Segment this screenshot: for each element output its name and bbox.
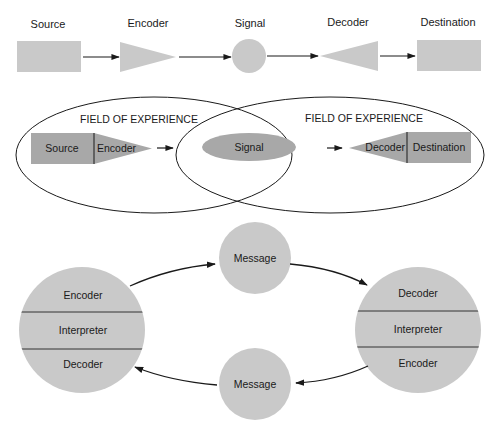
arrow-left-to-message-top (130, 264, 215, 286)
label-decoder: Decoder (327, 16, 369, 28)
linear-model: Source Encoder Signal Decoder Destinatio… (17, 16, 481, 73)
right-interpreter-label: Interpreter (394, 323, 443, 335)
source-label: Source (45, 142, 78, 154)
decoder-triangle (320, 41, 378, 71)
circular-model: Encoder Interpreter Decoder Message Mess… (15, 222, 490, 420)
label-source: Source (31, 18, 66, 30)
right-encoder-label: Encoder (398, 357, 438, 369)
arrow-message-bottom-to-left (135, 367, 217, 385)
field-right-label: FIELD OF EXPERIENCE (305, 112, 423, 124)
source-box (17, 41, 81, 72)
arrow-right-to-message-bottom (296, 366, 368, 383)
encoder-label: Encoder (97, 142, 137, 154)
signal-label: Signal (234, 141, 263, 153)
destination-box (417, 40, 481, 71)
message-bottom-label: Message (234, 378, 277, 390)
destination-label: Destination (413, 141, 466, 153)
message-top-label: Message (234, 252, 277, 264)
left-encoder-label: Encoder (63, 289, 103, 301)
left-decoder-label: Decoder (63, 358, 103, 370)
right-decoder-label: Decoder (398, 287, 438, 299)
decoder-label: Decoder (365, 141, 405, 153)
label-encoder: Encoder (128, 17, 169, 29)
encoder-triangle (120, 42, 176, 72)
arrow-message-top-to-right (290, 264, 367, 285)
label-signal: Signal (235, 17, 266, 29)
overlap-model: FIELD OF EXPERIENCE FIELD OF EXPERIENCE … (16, 97, 484, 213)
communication-models-diagram: Source Encoder Signal Decoder Destinatio… (0, 0, 499, 433)
signal-circle (232, 39, 266, 73)
field-left-label: FIELD OF EXPERIENCE (80, 113, 198, 125)
label-destination: Destination (420, 16, 475, 28)
left-interpreter-label: Interpreter (59, 324, 108, 336)
